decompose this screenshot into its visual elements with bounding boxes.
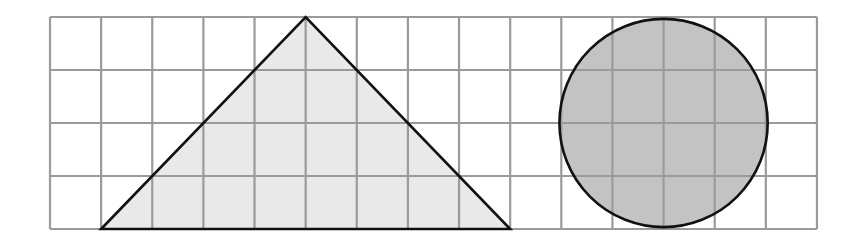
geometry-diagram — [0, 0, 857, 239]
diagram-canvas — [0, 0, 857, 239]
